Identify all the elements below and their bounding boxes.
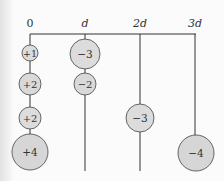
charge-label: +4 xyxy=(22,146,38,158)
axis-label-3d: 3d xyxy=(188,17,202,30)
axis-label-2d: 2d xyxy=(132,17,147,30)
charge-node: −3 xyxy=(70,39,100,69)
charge-label: +2 xyxy=(23,79,38,90)
charge-label: −2 xyxy=(78,79,93,90)
charge-label: −4 xyxy=(188,147,204,159)
charge-node: −2 xyxy=(74,73,96,95)
axis-label-0: 0 xyxy=(27,17,34,30)
charge-label: +2 xyxy=(23,113,38,124)
axis-label-d: d xyxy=(81,17,88,30)
diagram-canvas: 0 d 2d 3d +1 +2 +2 +4 −3 −2 xyxy=(0,0,224,181)
charge-label: −3 xyxy=(77,48,92,60)
charge-diagram: 0 d 2d 3d +1 +2 +2 +4 −3 −2 xyxy=(0,0,224,181)
charge-label: +1 xyxy=(23,48,37,59)
charge-node: +2 xyxy=(19,73,41,95)
charge-node: +2 xyxy=(19,107,41,129)
charge-node: +4 xyxy=(12,134,48,170)
charge-node: +1 xyxy=(22,45,38,61)
charge-node: −4 xyxy=(178,135,214,171)
charge-node: −3 xyxy=(126,104,154,132)
charge-label: −3 xyxy=(132,112,147,124)
